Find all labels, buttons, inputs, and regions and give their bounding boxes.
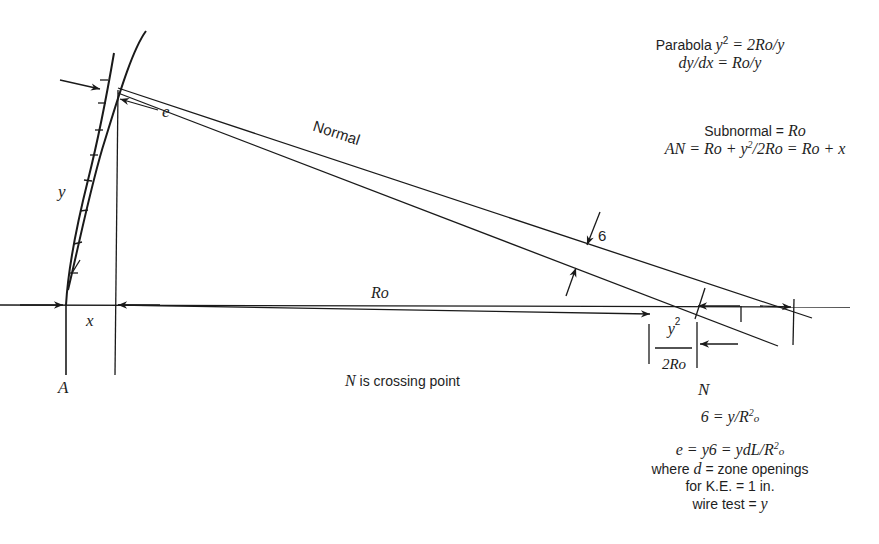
fraction-denominator: 2Ro — [650, 356, 698, 373]
label-six: 6 — [598, 228, 606, 244]
equations-subnormal: Subnormal = Ro AN = Ro + y2/2Ro = Ro + x — [640, 122, 870, 157]
fraction-y2-over-2Ro: y2 — [652, 320, 696, 338]
equation-subnormal: Subnormal = Ro — [640, 122, 870, 140]
equation-slope: dy/dx = Ro/y — [620, 54, 820, 71]
equation-parabola: Parabola y2 = 2Ro/y — [620, 36, 820, 54]
label-A: A — [58, 380, 68, 396]
equations-parabola: Parabola y2 = 2Ro/y dy/dx = Ro/y — [620, 36, 820, 71]
equation-wire: wire test = y — [630, 495, 830, 513]
label-N: N — [698, 382, 709, 398]
equation-e: e = y6 = ydL/R2o — [630, 441, 830, 460]
label-Ro: Ro — [371, 285, 389, 301]
equation-where: where d = zone openings — [630, 460, 830, 478]
equation-AN: AN = Ro + y2/2Ro = Ro + x — [640, 140, 870, 157]
sphere-curve — [68, 31, 146, 290]
label-e: e — [162, 104, 170, 120]
label-y: y — [58, 184, 66, 200]
equation-ke: for K.E. = 1 in. — [630, 478, 830, 495]
equations-error: 6 = y/R2o e = y6 = ydL/R2o where d = zon… — [630, 408, 830, 513]
label-crossing: N is crossing point — [345, 373, 460, 389]
label-x: x — [86, 313, 94, 329]
zone-vertical-line — [115, 90, 118, 375]
equation-six: 6 = y/R2o — [630, 408, 830, 427]
